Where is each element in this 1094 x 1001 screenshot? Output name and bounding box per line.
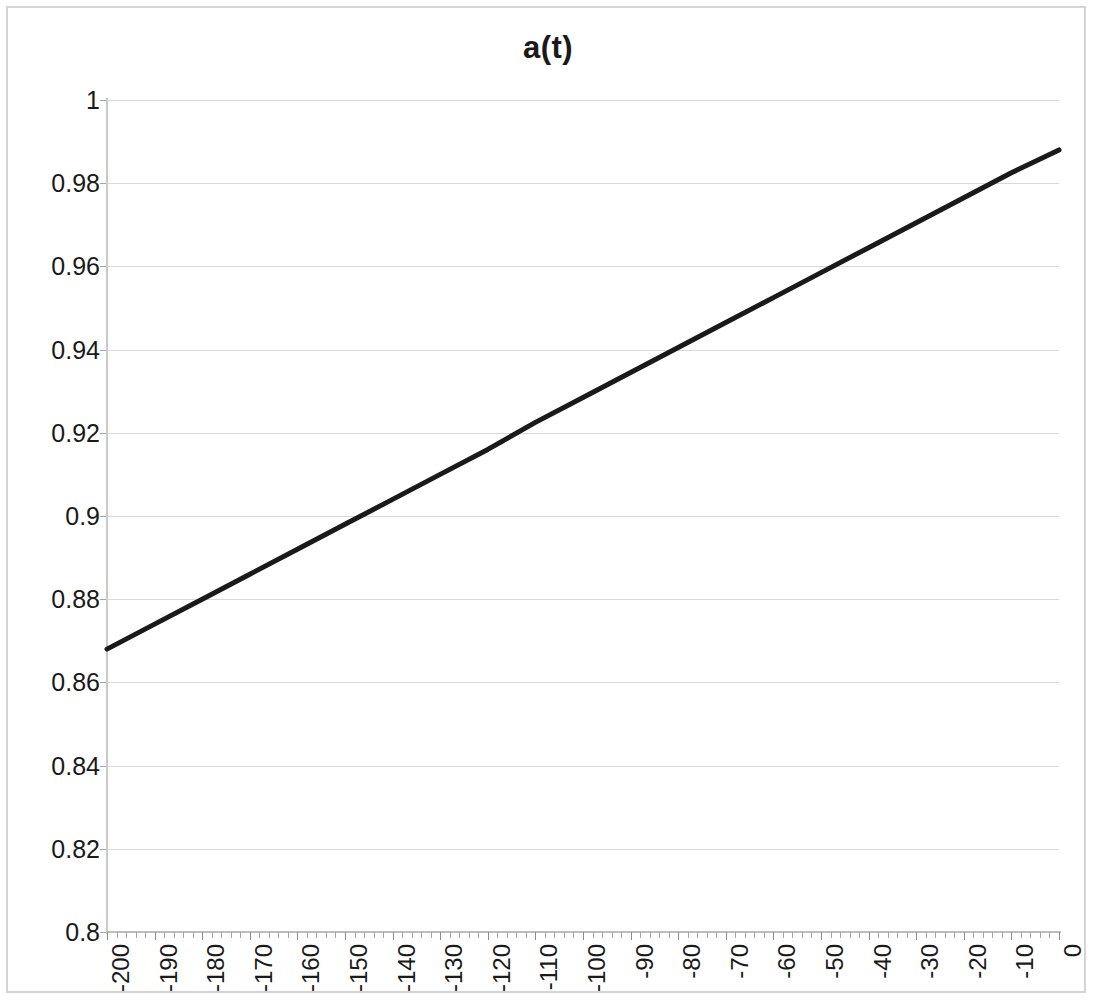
- x-axis-tick-label: -60: [773, 944, 801, 979]
- x-axis-major-tick: [678, 932, 679, 940]
- x-axis-tick-label-holder: -10: [1011, 944, 1012, 994]
- x-axis-minor-tick: [945, 932, 946, 938]
- x-axis-minor-tick: [145, 932, 146, 938]
- chart-frame: a(t) 0.80.820.840.860.880.90.920.940.960…: [6, 6, 1086, 993]
- x-axis-minor-tick: [545, 932, 546, 938]
- x-axis-tick-label: -150: [345, 944, 373, 992]
- x-axis-minor-tick: [840, 932, 841, 938]
- x-axis-minor-tick: [174, 932, 175, 938]
- x-axis-major-tick: [250, 932, 251, 940]
- y-axis-tick-label: 0.9: [14, 504, 100, 529]
- x-axis-tick-label-holder: -50: [821, 944, 822, 994]
- y-axis-tick-label: 0.92: [14, 421, 100, 446]
- x-axis-minor-tick: [1002, 932, 1003, 938]
- x-axis-minor-tick: [364, 932, 365, 938]
- x-axis-tick-label: -10: [1011, 944, 1039, 979]
- x-axis-minor-tick: [117, 932, 118, 938]
- x-axis-tick-label: -180: [202, 944, 230, 992]
- plot-area: [107, 100, 1059, 932]
- x-axis-minor-tick: [383, 932, 384, 938]
- x-axis-major-tick: [535, 932, 536, 940]
- x-axis-minor-tick: [554, 932, 555, 938]
- x-axis-minor-tick: [973, 932, 974, 938]
- x-axis-minor-tick: [640, 932, 641, 938]
- x-axis-minor-tick: [164, 932, 165, 938]
- x-axis-tick-label: -130: [440, 944, 468, 992]
- x-axis-major-tick: [964, 932, 965, 940]
- x-axis-minor-tick: [859, 932, 860, 938]
- y-axis-tick-label: 0.86: [14, 670, 100, 695]
- x-axis-major-tick: [726, 932, 727, 940]
- x-axis-tick-label-holder: -130: [440, 944, 441, 994]
- series-line: [107, 150, 1059, 649]
- y-axis-tick-label: 0.82: [14, 837, 100, 862]
- x-axis-tick-label: -110: [535, 944, 563, 990]
- x-axis-tick-label-holder: -200: [107, 944, 108, 994]
- x-axis-minor-tick: [1030, 932, 1031, 938]
- x-axis-minor-tick: [431, 932, 432, 938]
- x-axis-tick-label: -200: [107, 944, 135, 992]
- x-axis-tick-label-holder: -170: [250, 944, 251, 994]
- x-axis-tick-label: -170: [250, 944, 278, 992]
- x-axis-tick-label: -30: [916, 944, 944, 979]
- x-axis-minor-tick: [783, 932, 784, 938]
- x-axis-minor-tick: [612, 932, 613, 938]
- y-axis-tick-label: 0.84: [14, 754, 100, 779]
- x-axis-minor-tick: [754, 932, 755, 938]
- x-axis-minor-tick: [850, 932, 851, 938]
- x-axis-major-tick: [155, 932, 156, 940]
- series-line-chart: [107, 100, 1059, 932]
- y-axis-tick-label: 0.8: [14, 920, 100, 945]
- x-axis-tick-label: -100: [583, 944, 611, 992]
- x-axis-tick-label-holder: -150: [345, 944, 346, 994]
- x-axis-tick-label: -80: [678, 944, 706, 979]
- x-axis-minor-tick: [593, 932, 594, 938]
- x-axis-minor-tick: [307, 932, 308, 938]
- x-axis-minor-tick: [526, 932, 527, 938]
- y-axis-tick-label: 0.98: [14, 171, 100, 196]
- x-axis-minor-tick: [450, 932, 451, 938]
- x-axis-minor-tick: [183, 932, 184, 938]
- x-axis-minor-tick: [745, 932, 746, 938]
- x-axis-tick-label-holder: -70: [726, 944, 727, 994]
- x-axis-minor-tick: [374, 932, 375, 938]
- x-axis-minor-tick: [240, 932, 241, 938]
- x-axis-tick-label-holder: -140: [393, 944, 394, 994]
- x-axis-minor-tick: [573, 932, 574, 938]
- y-axis-tick-label: 0.94: [14, 338, 100, 363]
- x-axis-minor-tick: [335, 932, 336, 938]
- x-axis-minor-tick: [421, 932, 422, 938]
- x-axis-minor-tick: [193, 932, 194, 938]
- x-axis-tick-label: -190: [155, 944, 183, 992]
- x-axis-minor-tick: [602, 932, 603, 938]
- x-axis-major-tick: [583, 932, 584, 940]
- x-axis-tick-label-holder: -90: [631, 944, 632, 994]
- x-axis-minor-tick: [888, 932, 889, 938]
- x-axis-minor-tick: [269, 932, 270, 938]
- x-axis-minor-tick: [716, 932, 717, 938]
- x-axis-major-tick: [202, 932, 203, 940]
- x-axis-minor-tick: [802, 932, 803, 938]
- x-axis-major-tick: [916, 932, 917, 940]
- x-axis-minor-tick: [355, 932, 356, 938]
- x-axis-major-tick: [345, 932, 346, 940]
- chart-title: a(t): [8, 30, 1088, 66]
- x-axis-tick-label-holder: -100: [583, 944, 584, 994]
- x-axis-minor-tick: [212, 932, 213, 938]
- x-axis-minor-tick: [497, 932, 498, 938]
- x-axis-tick-label: -40: [869, 944, 897, 979]
- x-axis-minor-tick: [792, 932, 793, 938]
- x-axis-tick-label: -70: [726, 944, 754, 979]
- x-axis-tick-label: -160: [297, 944, 325, 992]
- x-axis-minor-tick: [478, 932, 479, 938]
- x-axis-minor-tick: [650, 932, 651, 938]
- x-axis-minor-tick: [688, 932, 689, 938]
- x-axis-minor-tick: [697, 932, 698, 938]
- x-axis-minor-tick: [621, 932, 622, 938]
- x-axis-minor-tick: [126, 932, 127, 938]
- x-axis-minor-tick: [1021, 932, 1022, 938]
- x-axis-major-tick: [297, 932, 298, 940]
- x-axis-minor-tick: [659, 932, 660, 938]
- x-axis-minor-tick: [136, 932, 137, 938]
- x-axis-minor-tick: [507, 932, 508, 938]
